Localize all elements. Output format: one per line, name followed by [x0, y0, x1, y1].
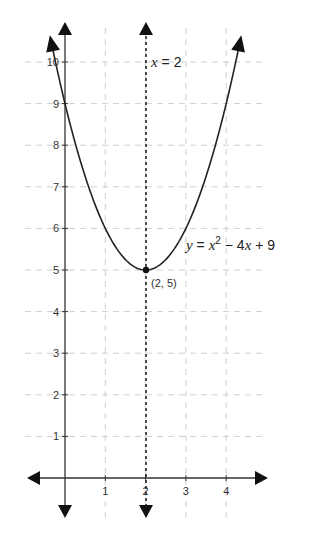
- y-tick-label: 6: [53, 222, 59, 234]
- y-tick-label: 4: [53, 306, 59, 318]
- y-tick-label: 3: [53, 347, 59, 359]
- curve-right-arrow-icon: [231, 35, 245, 52]
- curve-left-arrow-icon: [46, 35, 60, 52]
- x-axis: [27, 471, 268, 485]
- y-tick-label: 8: [53, 139, 59, 151]
- x-tick-label: 4: [223, 485, 229, 497]
- y-tick-label: 5: [53, 264, 59, 276]
- y-axis-up-arrow-icon: [58, 22, 72, 35]
- x-tick-label: 3: [183, 485, 189, 497]
- vline-label: x = 2: [150, 54, 182, 70]
- x-axis-right-arrow-icon: [255, 471, 268, 485]
- vertex-point: [143, 267, 149, 273]
- y-axis-down-arrow-icon: [58, 505, 72, 518]
- vline-up-arrow-icon: [139, 22, 153, 35]
- x-tick-label: 1: [102, 485, 108, 497]
- y-tick-label: 1: [53, 430, 59, 442]
- vline-down-arrow-icon: [139, 505, 153, 518]
- vertex-label: (2, 5): [151, 277, 177, 289]
- curve-label: y = x2 − 4x + 9: [184, 235, 275, 253]
- y-tick-label: 9: [53, 98, 59, 110]
- chart-canvas: 1234 12345678910 x = 2 y = x2 − 4x + 9 (…: [0, 0, 312, 541]
- y-tick-label: 7: [53, 181, 59, 193]
- y-tick-label: 2: [53, 389, 59, 401]
- x-axis-left-arrow-icon: [27, 471, 40, 485]
